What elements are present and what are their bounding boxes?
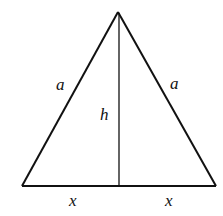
left-base-label: x: [68, 191, 77, 210]
right-side-line: [118, 12, 216, 186]
right-base-label: x: [164, 191, 173, 210]
height-label: h: [100, 105, 109, 124]
left-side-label: a: [56, 75, 65, 94]
right-side-label: a: [170, 74, 179, 93]
isosceles-triangle-diagram: a a h x x: [0, 0, 223, 216]
left-side-line: [22, 12, 118, 186]
